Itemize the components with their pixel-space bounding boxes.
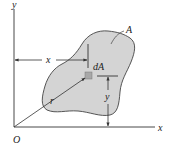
x-distance-label: x	[45, 54, 51, 65]
x-axis-label: x	[157, 122, 163, 133]
area-element-dA	[85, 72, 92, 79]
origin-label: O	[13, 134, 20, 145]
y-distance-label: y	[104, 91, 110, 102]
radius-label: r	[50, 95, 54, 106]
area-moment-diagram: y x O A dA x y r	[0, 0, 178, 153]
y-axis-label: y	[11, 0, 17, 10]
area-label: A	[125, 24, 133, 35]
element-label: dA	[93, 61, 105, 72]
